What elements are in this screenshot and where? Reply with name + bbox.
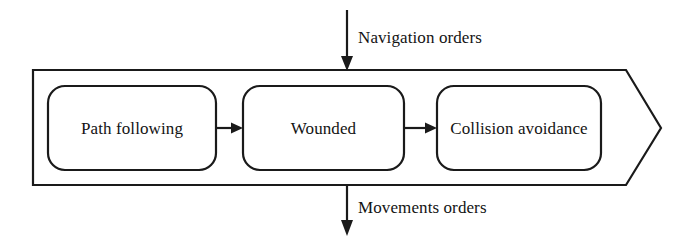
output-flow-arrow-movements-orders	[341, 185, 353, 236]
node-label-path-following: Path following	[48, 120, 216, 137]
node-label-wounded: Wounded	[243, 120, 404, 137]
flow-label-navigation-orders: Navigation orders	[358, 29, 482, 46]
flow-label-movements-orders: Movements orders	[358, 199, 487, 216]
diagram-canvas: Path following Wounded Collision avoidan…	[0, 0, 687, 244]
input-flow-arrow-navigation-orders	[341, 10, 353, 71]
node-label-collision-avoidance: Collision avoidance	[437, 120, 601, 137]
